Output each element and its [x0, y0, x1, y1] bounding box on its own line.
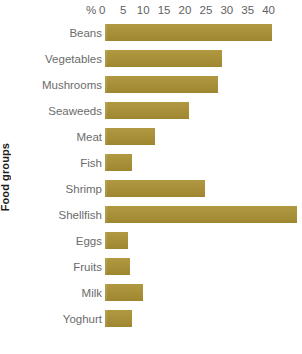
bar — [105, 206, 297, 223]
x-tick-label: 20 — [179, 3, 192, 17]
category-label: Beans — [0, 26, 102, 40]
chart-row: Shrimp — [0, 178, 302, 204]
chart-row: Mushrooms — [0, 74, 302, 100]
category-label: Shrimp — [0, 182, 102, 196]
category-label: Seaweeds — [0, 104, 102, 118]
bar — [105, 128, 155, 145]
category-label: Vegetables — [0, 52, 102, 66]
plot-area: BeansVegetablesMushroomsSeaweedsMeatFish… — [0, 22, 302, 354]
category-label: Meat — [0, 130, 102, 144]
chart-row: Fish — [0, 152, 302, 178]
x-tick-label: 40 — [262, 3, 275, 17]
bar — [105, 284, 143, 301]
chart-row: Vegetables — [0, 48, 302, 74]
x-tick-label: 5 — [120, 3, 126, 17]
category-label: Mushrooms — [0, 78, 102, 92]
category-label: Milk — [0, 286, 102, 300]
bar — [105, 102, 189, 119]
chart-row: Meat — [0, 126, 302, 152]
x-tick-label: 30 — [220, 3, 233, 17]
bar — [105, 50, 222, 67]
x-tick-label: 0 — [99, 3, 105, 17]
bar — [105, 180, 205, 197]
category-label: Yoghurt — [0, 312, 102, 326]
chart-row: Eggs — [0, 230, 302, 256]
x-tick-label: 35 — [241, 3, 254, 17]
x-tick-label: 25 — [200, 3, 213, 17]
chart-row: Beans — [0, 22, 302, 48]
category-label: Fruits — [0, 260, 102, 274]
bar — [105, 24, 272, 41]
category-label: Fish — [0, 156, 102, 170]
bar — [105, 154, 132, 171]
bar — [105, 76, 218, 93]
x-axis: % 0510152025303540 — [0, 0, 302, 22]
chart-row: Seaweeds — [0, 100, 302, 126]
bar — [105, 232, 128, 249]
category-label: Shellfish — [0, 208, 102, 222]
chart-row: Fruits — [0, 256, 302, 282]
x-tick-label: 15 — [158, 3, 171, 17]
x-axis-percent-symbol: % — [86, 3, 96, 17]
category-label: Eggs — [0, 234, 102, 248]
x-tick-label: 10 — [137, 3, 150, 17]
chart-row: Shellfish — [0, 204, 302, 230]
chart-row: Milk — [0, 282, 302, 308]
chart-row: Yoghurt — [0, 308, 302, 334]
bar — [105, 310, 132, 327]
bar — [105, 258, 130, 275]
bar-chart: % 0510152025303540 Food groups BeansVege… — [0, 0, 302, 354]
